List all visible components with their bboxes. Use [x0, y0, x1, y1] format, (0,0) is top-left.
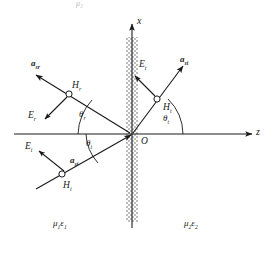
medium-2-label: μ2ε2 — [184, 219, 198, 230]
incident-h-marker — [59, 171, 65, 177]
incident-ray-line — [36, 135, 131, 189]
origin-label: O — [141, 137, 148, 147]
incident-e-label: Ei — [25, 142, 32, 153]
transmitted-propagation-label: ast — [180, 55, 188, 66]
reflected-e-label: Er — [28, 111, 36, 122]
transmitted-h-marker — [154, 96, 160, 102]
wave-interface-diagram: μ₃ x z O asr Hr Er θr asi Ei Hi θi ast E… — [0, 0, 278, 258]
transmitted-e-label: Et — [139, 60, 146, 71]
reflected-angle-label: θr — [79, 110, 86, 121]
z-axis-label: z — [256, 127, 260, 137]
x-axis-label: x — [137, 16, 141, 26]
diagram-canvas — [0, 0, 278, 258]
transmitted-angle-label: θt — [163, 114, 169, 125]
reflected-ray-line — [36, 75, 130, 133]
incident-propagation-label: asi — [70, 156, 78, 167]
reflected-h-label: Hr — [72, 81, 81, 92]
incident-e-vector — [39, 151, 64, 171]
medium-1-label: μ1ε1 — [53, 219, 67, 230]
reflected-e-vector — [45, 97, 67, 119]
top-fragment-label: μ₃ — [76, 0, 83, 8]
reflected-propagation-label: asr — [31, 59, 40, 70]
incident-angle-label: θi — [86, 139, 92, 150]
incident-h-label: Hi — [63, 181, 72, 192]
